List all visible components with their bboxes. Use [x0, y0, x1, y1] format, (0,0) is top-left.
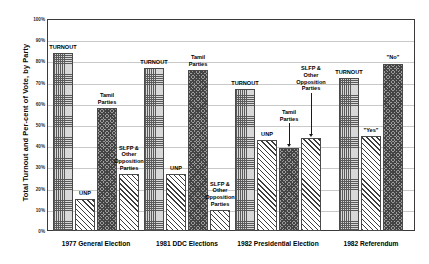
bar	[339, 78, 359, 231]
bar	[188, 70, 208, 231]
bar	[257, 140, 277, 231]
bar	[53, 53, 73, 231]
y-axis-tick-label: 40%	[21, 144, 45, 149]
y-axis-tick-label: 60%	[21, 101, 45, 106]
y-axis-tick-label: 100%	[21, 17, 45, 22]
callout-leader-line	[311, 93, 312, 134]
gridline	[48, 84, 414, 85]
bar	[279, 148, 299, 231]
bar	[119, 174, 139, 231]
bar	[383, 64, 403, 231]
y-axis-tick-label: 30%	[21, 165, 45, 170]
bar	[166, 174, 186, 231]
gridline	[48, 62, 414, 63]
y-axis-tick-label: 90%	[21, 38, 45, 43]
bar	[210, 210, 230, 231]
y-axis-tick-label: 0%	[21, 229, 45, 234]
callout-arrow-head	[287, 144, 291, 147]
callout-leader-line	[289, 123, 290, 144]
callout-arrow-head	[309, 134, 313, 137]
y-axis-tick-label: 10%	[21, 207, 45, 212]
bar-chart: Total Turnout and Per-cent of Vote, by P…	[0, 0, 429, 264]
bar	[75, 199, 95, 231]
bar	[361, 136, 381, 231]
x-axis-category-label: 1982 Referendum	[311, 240, 429, 247]
bar	[235, 89, 255, 231]
y-axis-tick-label: 50%	[21, 123, 45, 128]
gridline	[48, 41, 414, 42]
bar	[97, 108, 117, 231]
gridline	[48, 105, 414, 106]
y-axis-tick-label: 70%	[21, 80, 45, 85]
y-axis-tick-label: 20%	[21, 186, 45, 191]
bar	[144, 68, 164, 231]
y-axis-tick-label: 80%	[21, 59, 45, 64]
bar	[301, 138, 321, 231]
